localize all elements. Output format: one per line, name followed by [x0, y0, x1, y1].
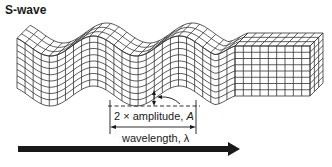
- arrow-head-down-icon: [152, 101, 156, 106]
- arrow-head-left-icon: [110, 125, 116, 129]
- arrow-head-up-icon: [152, 90, 156, 95]
- arrow-head-right-icon: [190, 125, 196, 129]
- s-wave-diagram: S-wave 2 × amplitude, A wavelength, λ: [0, 0, 332, 167]
- arrow-right-icon: [228, 142, 240, 156]
- amplitude-label: 2 × amplitude, A: [114, 110, 194, 122]
- propagation-arrow: [18, 142, 240, 156]
- amplitude-symbol: A: [186, 110, 193, 122]
- wave-mesh: [17, 23, 248, 106]
- propagation-arrow-shaft: [18, 146, 230, 152]
- wavelength-label: wavelength, λ: [122, 132, 189, 144]
- undisturbed-block: [235, 33, 323, 96]
- pointer-curve: [160, 97, 180, 104]
- pointer-arrow-head-icon: [157, 95, 162, 99]
- amplitude-label-text: 2 × amplitude,: [114, 110, 186, 122]
